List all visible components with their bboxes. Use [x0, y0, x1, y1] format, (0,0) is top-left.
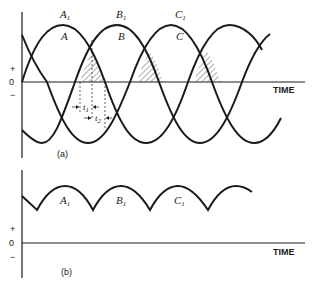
- svg-text:t2: t2: [95, 113, 102, 125]
- panel-a-caption: (a): [57, 149, 68, 159]
- label-c1: C1: [175, 8, 186, 22]
- label-c: C: [176, 30, 184, 42]
- panel-a-time-label: TIME: [273, 85, 295, 95]
- hatched-region-1: [80, 52, 105, 82]
- label-b1: B1: [116, 8, 126, 22]
- panel-a-zero-label: 0: [9, 77, 14, 87]
- waveform-diagram: t1 t2 + 0 − TIME A1 B1 C1 A B C (a) A1 B…: [0, 0, 314, 285]
- panel-b-time-label: TIME: [273, 247, 295, 257]
- hump-label-b1: B1: [116, 194, 126, 208]
- waveform-curve-3: [22, 25, 270, 143]
- label-a: A: [60, 30, 68, 42]
- panel-b-zero-label: 0: [9, 238, 14, 248]
- svg-text:t1: t1: [83, 102, 89, 114]
- hump-label-c1: C1: [174, 194, 185, 208]
- panel-b-caption: (b): [61, 267, 72, 277]
- panel-a-plus-label: +: [10, 64, 15, 74]
- panel-a: t1 t2 + 0 − TIME A1 B1 C1 A B C (a): [9, 8, 305, 159]
- panel-a-minus-label: −: [10, 90, 15, 100]
- interval-t2: t2: [84, 113, 112, 125]
- label-b: B: [118, 30, 125, 42]
- rectified-waveform: [22, 186, 252, 210]
- hump-label-a1: A1: [59, 194, 70, 208]
- label-a1: A1: [59, 8, 70, 22]
- panel-b-minus-label: −: [10, 252, 15, 262]
- panel-b: A1 B1 C1 + 0 − TIME (b): [9, 170, 305, 278]
- panel-b-plus-label: +: [10, 224, 15, 234]
